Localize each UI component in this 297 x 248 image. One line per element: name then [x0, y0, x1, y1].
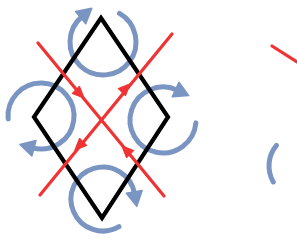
figure-canvas: Rhombus with crossing red diagonals and …	[0, 0, 297, 248]
canvas-background	[0, 0, 297, 248]
